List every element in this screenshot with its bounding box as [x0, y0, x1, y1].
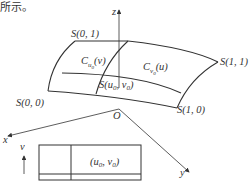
curve-label-cv0: Cv0(u)	[143, 61, 168, 76]
surface-edge-bottom	[48, 91, 177, 108]
header-text: 所示。	[0, 1, 33, 14]
y-axis-label: y	[179, 167, 185, 178]
x-axis	[8, 109, 119, 136]
corner-label-s11: S(1, 1)	[220, 56, 248, 68]
corner-label-s10: S(1, 0)	[177, 104, 205, 116]
corner-label-s01: S(0, 1)	[71, 28, 99, 40]
parametric-surface-diagram: 所示。 z x y O S(0, 1) S(1, 1) S(0, 0) S(1,…	[0, 0, 252, 188]
x-axis-label: x	[2, 134, 8, 145]
z-axis-label: z	[111, 6, 116, 17]
corner-label-s00: S(0, 0)	[16, 97, 44, 109]
surface-edge-left	[48, 41, 75, 91]
domain-point-label: (u0, v0)	[90, 156, 120, 169]
diagram-canvas: 所示。 z x y O S(0, 1) S(1, 1) S(0, 0) S(1,…	[0, 0, 252, 188]
y-axis	[119, 109, 189, 172]
point-label-s-u0-v0: S(u0, v0)	[99, 79, 134, 92]
surface-edge-right	[177, 62, 218, 108]
origin-label: O	[113, 110, 121, 121]
curve-label-cu0: Cu0(v)	[81, 55, 106, 70]
v-axis-label: v	[20, 141, 25, 152]
